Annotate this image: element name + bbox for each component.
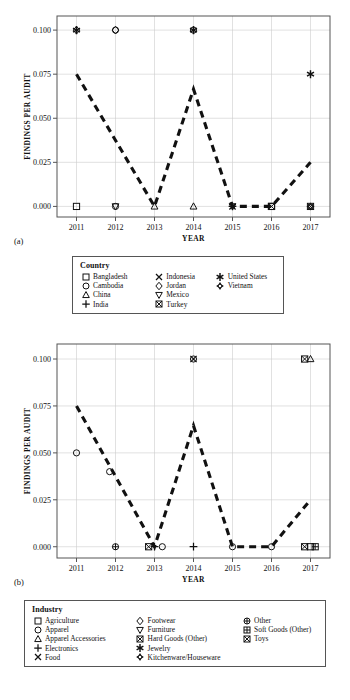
legend-country-entry[interactable]: India	[80, 300, 153, 309]
panel-label-b: (b)	[14, 577, 24, 587]
legend-industry-entry[interactable]: Apparel	[32, 625, 135, 634]
legend-country-container: Country BangladeshCambodiaChinaIndiaIndo…	[0, 256, 350, 328]
legend-industry-entry-label: Kitchenware/Houseware	[148, 653, 221, 662]
legend-industry-entry[interactable]: Electronics	[32, 644, 135, 653]
svg-text:0.100: 0.100	[33, 355, 51, 364]
svg-text:FINDINGS PER AUDIT: FINDINGS PER AUDIT	[23, 73, 32, 159]
triangle-up-marker-icon	[32, 635, 43, 644]
legend-country-columns: BangladeshCambodiaChinaIndiaIndonesiaJor…	[80, 272, 276, 309]
legend-industry-entry[interactable]: Jewelry	[135, 644, 242, 653]
legend-country-entry-label: Turkey	[166, 300, 187, 309]
svg-text:FINDINGS PER AUDIT: FINDINGS PER AUDIT	[23, 408, 32, 494]
chart-panel-a: 0.0000.0250.0500.0750.100201120122013201…	[0, 0, 350, 250]
svg-text:2014: 2014	[186, 564, 202, 573]
svg-text:0.000: 0.000	[33, 202, 51, 211]
legend-industry-entry[interactable]: Hard Goods (Other)	[135, 634, 242, 643]
scatter-plot-b: 0.0000.0250.0500.0750.100201120122013201…	[0, 330, 350, 592]
diamond-marker-icon	[153, 281, 164, 290]
legend-industry-entry[interactable]: Kitchenware/Houseware	[135, 653, 242, 662]
diamond-marker-icon	[135, 616, 146, 625]
legend-industry: Industry AgricultureApparelApparel Acces…	[24, 600, 326, 667]
legend-industry-entry-label: Food	[45, 653, 60, 662]
asterisk-marker-icon	[215, 272, 226, 281]
legend-industry-entry[interactable]: Furniture	[135, 625, 242, 634]
legend-country-column-0: BangladeshCambodiaChinaIndia	[80, 272, 153, 309]
legend-industry-title: Industry	[32, 605, 318, 615]
svg-text:2016: 2016	[264, 564, 280, 573]
legend-industry-entry-label: Apparel	[45, 625, 69, 634]
svg-text:0.025: 0.025	[33, 158, 51, 167]
legend-industry-column-1: FootwearFurnitureHard Goods (Other)Jewel…	[135, 616, 242, 662]
legend-country-entry[interactable]: Turkey	[153, 300, 214, 309]
vietnam-marker-icon	[135, 653, 146, 662]
svg-text:0.025: 0.025	[33, 496, 51, 505]
circle-marker-icon	[32, 625, 43, 634]
legend-industry-entry-label: Footwear	[148, 616, 176, 625]
legend-country-title: Country	[80, 261, 276, 271]
legend-industry-entry[interactable]: Toys	[241, 634, 318, 643]
vietnam-marker-icon	[215, 281, 226, 290]
svg-text:0.075: 0.075	[33, 70, 51, 79]
legend-industry-entry[interactable]: Footwear	[135, 616, 242, 625]
legend-country-entry[interactable]: Cambodia	[80, 281, 153, 290]
svg-text:0.000: 0.000	[33, 543, 51, 552]
legend-country-entry-label: Vietnam	[228, 281, 253, 290]
legend-industry-entry-label: Electronics	[45, 644, 78, 653]
asterisk-marker-icon	[135, 644, 146, 653]
square-marker-icon	[32, 616, 43, 625]
figure-page: 0.0000.0250.0500.0750.100201120122013201…	[0, 0, 350, 700]
legend-industry-entry-label: Agriculture	[45, 616, 79, 625]
plus-marker-icon	[32, 644, 43, 653]
svg-text:0.100: 0.100	[33, 26, 51, 35]
legend-industry-entry[interactable]: Soft Goods (Other)	[241, 625, 318, 634]
triangle-up-marker-icon	[80, 291, 91, 300]
legend-country-column-1: IndonesiaJordanMexicoTurkey	[153, 272, 214, 309]
square-marker-icon	[80, 272, 91, 281]
svg-text:2016: 2016	[264, 223, 280, 232]
legend-industry-entry[interactable]: Other	[241, 616, 318, 625]
legend-country-column-2: United StatesVietnam	[215, 272, 276, 309]
scatter-plot-a: 0.0000.0250.0500.0750.100201120122013201…	[0, 0, 350, 250]
svg-text:2013: 2013	[147, 564, 163, 573]
triangle-down-marker-icon	[135, 625, 146, 634]
svg-text:2013: 2013	[147, 223, 163, 232]
legend-country: Country BangladeshCambodiaChinaIndiaIndo…	[72, 256, 284, 314]
svg-text:0.050: 0.050	[33, 114, 51, 123]
svg-text:2012: 2012	[108, 564, 124, 573]
cross-marker-icon	[153, 272, 164, 281]
legend-industry-entry-label: Apparel Accessories	[45, 634, 106, 643]
legend-country-entry-label: United States	[228, 272, 268, 281]
chart-panel-b: 0.0000.0250.0500.0750.100201120122013201…	[0, 330, 350, 592]
svg-text:2017: 2017	[303, 223, 319, 232]
legend-country-entry-label: Indonesia	[166, 272, 195, 281]
legend-industry-entry[interactable]: Food	[32, 653, 135, 662]
legend-industry-entry-label: Toys	[254, 634, 268, 643]
circle-marker-icon	[80, 281, 91, 290]
svg-text:YEAR: YEAR	[182, 575, 205, 584]
soft-goods-marker-icon	[241, 625, 252, 634]
panel-label-a: (a)	[14, 236, 23, 246]
legend-country-entry-label: Bangladesh	[93, 272, 127, 281]
legend-industry-entry[interactable]: Agriculture	[32, 616, 135, 625]
legend-industry-entry[interactable]: Apparel Accessories	[32, 634, 135, 643]
legend-industry-entry-label: Other	[254, 616, 271, 625]
svg-text:2011: 2011	[69, 564, 85, 573]
legend-industry-column-0: AgricultureApparelApparel AccessoriesEle…	[32, 616, 135, 662]
legend-country-entry[interactable]: China	[80, 290, 153, 299]
legend-country-entry-label: Mexico	[166, 290, 189, 299]
legend-country-entry-label: Jordan	[166, 281, 186, 290]
legend-industry-entry-label: Furniture	[148, 625, 176, 634]
svg-text:2011: 2011	[69, 223, 85, 232]
other-marker-icon	[241, 616, 252, 625]
svg-text:2014: 2014	[186, 223, 202, 232]
legend-industry-entry-label: Jewelry	[148, 644, 171, 653]
svg-text:0.075: 0.075	[33, 402, 51, 411]
legend-country-entry[interactable]: Vietnam	[215, 281, 276, 290]
svg-text:2015: 2015	[225, 564, 241, 573]
legend-industry-container: Industry AgricultureApparelApparel Acces…	[0, 600, 350, 696]
square-cross-marker-icon	[153, 300, 164, 309]
legend-country-entry[interactable]: Bangladesh	[80, 272, 153, 281]
legend-country-entry-label: China	[93, 290, 111, 299]
legend-country-entry-label: India	[93, 300, 108, 309]
legend-industry-column-2: OtherSoft Goods (Other)Toys	[241, 616, 318, 662]
